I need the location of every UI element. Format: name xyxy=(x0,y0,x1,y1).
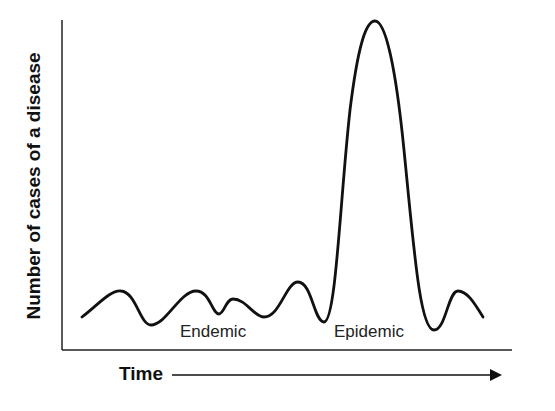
x-axis-label: Time xyxy=(119,363,163,385)
y-axis-label: Number of cases of a disease xyxy=(23,52,45,319)
epidemic-annotation: Epidemic xyxy=(334,322,404,342)
endemic-annotation: Endemic xyxy=(180,322,246,342)
endemic-vs-epidemic-diagram: Number of cases of a disease Time Endemi… xyxy=(0,0,555,411)
arrow-head-icon xyxy=(490,369,502,381)
cases-curve xyxy=(82,21,483,330)
chart-canvas xyxy=(0,0,555,411)
